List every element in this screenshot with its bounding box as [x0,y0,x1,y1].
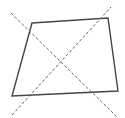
dashed-line-diagonal-2 [12,7,111,115]
quadrilateral-shape [12,18,118,96]
dashed-line-diagonal-1 [11,13,117,117]
geometry-diagram [0,0,125,118]
